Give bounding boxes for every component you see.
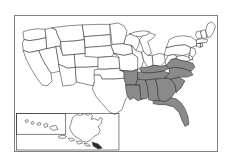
state-new-jersey[interactable]	[190, 48, 196, 58]
map-figure	[0, 0, 232, 160]
state-rhode-island[interactable]	[201, 44, 203, 47]
state-nebraska[interactable]	[85, 46, 114, 58]
state-ohio[interactable]	[152, 53, 165, 66]
state-wyoming[interactable]	[61, 40, 86, 56]
inset-layer	[16, 114, 118, 150]
state-massachusetts[interactable]	[197, 39, 208, 44]
state-florida[interactable]	[153, 98, 188, 127]
map-frame	[14, 15, 218, 152]
alaska-inset-box	[16, 114, 118, 150]
state-connecticut[interactable]	[197, 44, 201, 48]
state-vermont[interactable]	[196, 31, 202, 39]
state-maine[interactable]	[206, 22, 216, 38]
us-map	[15, 16, 217, 151]
state-kansas[interactable]	[98, 56, 120, 69]
hawaii-islands[interactable]	[25, 119, 58, 130]
states-layer	[22, 22, 215, 126]
alaska-landmass[interactable]	[59, 114, 102, 149]
